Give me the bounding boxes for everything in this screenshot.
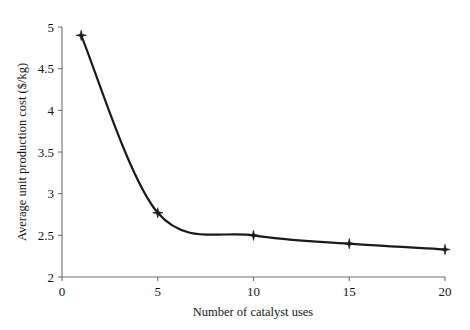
y-tick-label: 2.5 <box>38 228 54 243</box>
x-tick-label: 20 <box>439 284 452 299</box>
y-tick-label: 4 <box>48 103 55 118</box>
x-tick-label: 5 <box>155 284 162 299</box>
x-tick-label: 0 <box>59 284 66 299</box>
x-tick-label: 10 <box>247 284 260 299</box>
y-tick-label: 5 <box>48 20 55 35</box>
chart-figure: 22.533.544.55 05101520 Number of catalys… <box>0 0 470 330</box>
chart-background <box>0 0 470 330</box>
line-chart: 22.533.544.55 05101520 Number of catalys… <box>0 0 470 330</box>
y-tick-label: 3 <box>48 186 55 201</box>
x-tick-label: 15 <box>343 284 356 299</box>
y-tick-label: 2 <box>48 270 55 285</box>
y-tick-label: 4.5 <box>38 61 54 76</box>
y-tick-label: 3.5 <box>38 145 54 160</box>
y-axis-title: Average unit production cost ($/kg) <box>15 63 29 241</box>
x-axis-title: Number of catalyst uses <box>193 305 314 319</box>
